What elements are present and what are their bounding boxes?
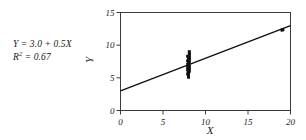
x-tick-label: 5: [161, 117, 166, 127]
y-axis-title: Y: [83, 57, 95, 63]
x-tick-label: 15: [244, 117, 253, 127]
regression-line-path: [121, 26, 291, 91]
regression-line: [121, 26, 291, 91]
scatter-point: [186, 72, 189, 75]
y-tick-label: 10: [106, 40, 115, 50]
scatter-point: [186, 55, 189, 58]
plot-frame: [121, 13, 291, 111]
plot-frame-rect: [121, 13, 291, 111]
scatter-point: [186, 66, 189, 69]
y-tick-label: 5: [110, 73, 115, 83]
plot-area: 05101520051015 X Y: [0, 0, 306, 140]
scatter-point: [186, 68, 189, 71]
axis-ticks: [117, 13, 291, 115]
x-tick-label: 20: [286, 117, 295, 127]
y-tick-label: 15: [106, 8, 115, 18]
scatter-point: [188, 50, 191, 53]
x-axis-title: X: [207, 124, 214, 136]
figure-scatter-regression: Y = 3.0 + 0.5X R2 = 0.67 05101520051015 …: [0, 0, 306, 140]
scatter-point: [281, 28, 284, 31]
scatter-point: [186, 63, 189, 66]
y-tick-label: 0: [110, 106, 115, 116]
x-tick-label: 0: [118, 117, 123, 127]
scatter-point: [186, 59, 189, 62]
scatter-points: [186, 28, 284, 79]
plot-canvas: [0, 0, 306, 140]
